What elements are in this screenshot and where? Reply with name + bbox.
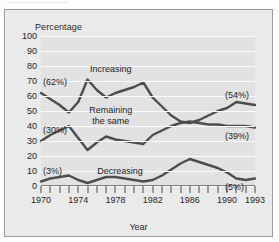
x-axis-tick	[171, 186, 172, 193]
chart-screenshot: —————————— Percentage 010203040506070809…	[0, 0, 279, 242]
series-start-value-label: (62%)	[43, 77, 67, 87]
series-annotation: Decreasing	[97, 166, 143, 177]
series-end-value-label: (54%)	[225, 90, 249, 100]
gridline	[41, 81, 255, 82]
x-axis-line	[41, 185, 255, 186]
series-start-value-label: (30%)	[43, 125, 67, 135]
y-axis-tick-label: 90	[11, 46, 37, 56]
x-axis-tick-label: 1978	[105, 195, 125, 205]
gridline	[41, 156, 255, 157]
x-axis-tick	[161, 186, 162, 193]
series-end-value-label: (39%)	[225, 131, 249, 141]
gridline	[41, 141, 255, 142]
x-axis-tick	[41, 186, 42, 193]
x-axis-tick-label: 1986	[180, 195, 200, 205]
y-axis-tick-label: 20	[11, 151, 37, 161]
x-axis-tick	[180, 186, 181, 193]
x-axis-tick	[50, 186, 51, 193]
x-axis-tick	[106, 186, 107, 193]
x-axis-tick	[124, 186, 125, 193]
plot-area: 0102030405060708090100197019741978198219…	[41, 36, 255, 186]
y-axis-title: Percentage	[35, 22, 82, 32]
x-axis-tick-label: 1982	[143, 195, 163, 205]
gridline	[41, 111, 255, 112]
gridline	[41, 36, 255, 37]
x-axis-tick	[245, 186, 246, 193]
gridline	[41, 186, 255, 187]
x-axis-tick	[59, 186, 60, 193]
y-axis-tick-label: 40	[11, 121, 37, 131]
series-annotation: Increasing	[90, 64, 132, 75]
gridline	[41, 126, 255, 127]
x-axis-tick	[189, 186, 190, 193]
x-axis-tick-label: 1993	[245, 195, 265, 205]
y-axis-tick-label: 50	[11, 106, 37, 116]
x-axis-tick	[143, 186, 144, 193]
x-axis-tick	[152, 186, 153, 193]
y-axis-tick-label: 10	[11, 166, 37, 176]
series-annotation: Remainingthe same	[89, 105, 132, 127]
x-axis-tick	[115, 186, 116, 193]
chart-figure: Percentage 01020304050607080901001970197…	[4, 9, 273, 237]
x-axis-tick	[87, 186, 88, 193]
x-axis-tick	[217, 186, 218, 193]
x-axis-tick	[96, 186, 97, 193]
y-axis-tick-label: 60	[11, 91, 37, 101]
gridline	[41, 96, 255, 97]
y-axis-tick-label: 100	[11, 31, 37, 41]
x-axis-tick	[208, 186, 209, 193]
y-axis-tick-label: 30	[11, 136, 37, 146]
gridline	[41, 66, 255, 67]
clipped-caption-text: ——————————	[6, 0, 196, 6]
x-axis-tick	[68, 186, 69, 193]
y-axis-tick-label: 80	[11, 61, 37, 71]
x-axis-tick-label: 1990	[217, 195, 237, 205]
gridline	[41, 51, 255, 52]
x-axis-tick-label: 1974	[68, 195, 88, 205]
x-axis-tick	[199, 186, 200, 193]
series-line	[41, 80, 255, 124]
x-axis-tick	[255, 186, 256, 193]
x-axis-tick-label: 1970	[31, 195, 51, 205]
x-axis-title: Year	[5, 222, 272, 232]
series-start-value-label: (3%)	[43, 166, 62, 176]
y-axis-tick-label: 70	[11, 76, 37, 86]
y-axis-tick-label: 0	[11, 181, 37, 191]
gridline	[41, 171, 255, 172]
series-end-value-label: (5%)	[225, 182, 244, 192]
x-axis-tick	[134, 186, 135, 193]
x-axis-tick	[78, 186, 79, 193]
